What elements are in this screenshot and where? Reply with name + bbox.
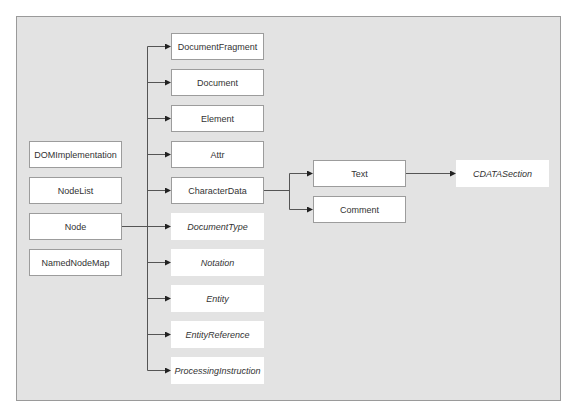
box-comment: Comment [313,196,406,223]
box-cdatasection: CDATASection [456,160,549,187]
box-domimplementation: DOMImplementation [29,141,122,168]
box-namednodemap: NamedNodeMap [29,249,122,276]
box-processinginstruction: ProcessingInstruction [171,357,264,384]
box-text: Text [313,160,406,187]
box-nodelist: NodeList [29,177,122,204]
box-characterdata: CharacterData [171,177,264,204]
box-attr: Attr [171,141,264,168]
box-notation: Notation [171,249,264,276]
box-documentfragment: DocumentFragment [171,33,264,60]
box-entity: Entity [171,285,264,312]
box-entityreference: EntityReference [171,321,264,348]
connector-lines [0,0,577,418]
box-element: Element [171,105,264,132]
box-documenttype: DocumentType [171,213,264,240]
box-document: Document [171,69,264,96]
box-node: Node [29,213,122,240]
